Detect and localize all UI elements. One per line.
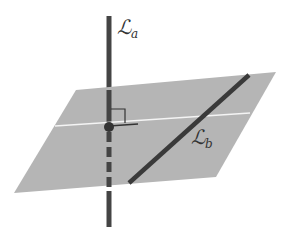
plane	[14, 72, 276, 193]
intersection-point	[104, 122, 114, 132]
diagram-canvas: ℒa ℒb	[0, 0, 297, 244]
label-line-a: ℒa	[117, 15, 138, 41]
perpendicular-line-plane-diagram: ℒa ℒb	[0, 0, 297, 244]
